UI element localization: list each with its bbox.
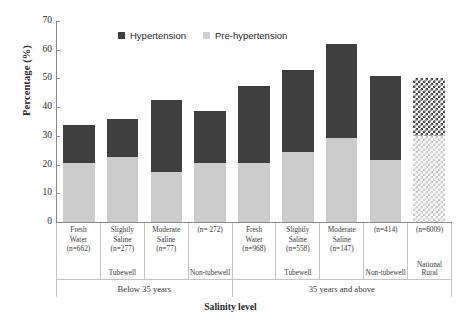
stacked-bar[interactable] <box>194 111 226 222</box>
bar-segment-pre-hypertension[interactable] <box>107 157 139 222</box>
legend-label: Pre-hypertension <box>215 30 287 41</box>
category-name-line: Saline <box>320 235 363 245</box>
bar-segment-hypertension[interactable] <box>282 70 314 152</box>
y-tick-mark <box>56 78 60 79</box>
category-name-line: Saline <box>276 235 319 245</box>
y-axis-tick-labels: 706050403020100 <box>34 21 56 222</box>
legend-item[interactable]: Pre-hypertension <box>203 30 287 41</box>
bar-segment-pre-hypertension[interactable] <box>282 152 314 222</box>
y-tick-label: 20 <box>43 160 53 170</box>
category-name: (n=414) <box>364 225 407 235</box>
stacked-bar[interactable] <box>326 44 358 222</box>
category-name-line: (n=147) <box>320 244 363 254</box>
bar-segment-hypertension[interactable] <box>238 86 270 163</box>
y-axis-title: Percentage (%) <box>21 11 32 151</box>
y-tick-label: 40 <box>43 102 53 112</box>
category-sublabel: NationalRural <box>408 261 451 279</box>
category-label-cell: (n=6009)NationalRural <box>408 223 451 279</box>
y-tick-mark <box>56 222 60 223</box>
bar-segment-pre-hypertension[interactable] <box>326 138 358 222</box>
bar-slot <box>188 21 232 222</box>
x-axis-category-labels: FreshWater(n=662)SlightlySaline(n=277)Tu… <box>57 223 451 279</box>
hypertension-swatch <box>118 32 125 39</box>
category-name: (n=6009) <box>408 225 451 235</box>
category-sublabel: Non-tubewell <box>189 269 232 278</box>
group-label: Below 35 years <box>118 284 171 294</box>
bar-segment-pre-hypertension[interactable] <box>370 160 402 222</box>
category-name: SlightlySaline(n=558) <box>276 225 319 254</box>
bar-slot <box>363 21 407 222</box>
bar-segment-hypertension[interactable] <box>151 100 183 172</box>
x-axis-group-labels: Below 35 years35 years and above <box>57 279 451 297</box>
category-name-line: Saline <box>101 235 144 245</box>
bar-segment-pre-hypertension[interactable] <box>194 163 226 222</box>
category-name-line: (n=6009) <box>408 225 451 235</box>
legend-item[interactable]: Hypertension <box>118 30 186 41</box>
category-name-line: Saline <box>145 235 188 245</box>
bar-segment-hypertension[interactable] <box>63 125 95 163</box>
bar-series-container <box>57 21 451 222</box>
category-name-line: Slightly <box>276 225 319 235</box>
category-label-cell: SlightlySaline(n=558)Tubewell <box>276 223 320 279</box>
bar-slot <box>407 21 451 222</box>
stacked-bar[interactable] <box>282 70 314 222</box>
stacked-bar[interactable] <box>107 119 139 222</box>
category-name-line: (n=77) <box>145 244 188 254</box>
category-name: ModerateSaline(n=147) <box>320 225 363 254</box>
legend-label: Hypertension <box>130 30 186 41</box>
stacked-bar[interactable] <box>370 76 402 222</box>
category-label-cell: SlightlySaline(n=277)Tubewell <box>101 223 145 279</box>
category-name-line: Moderate <box>320 225 363 235</box>
category-label-cell: (n=414)Non-tubewell <box>364 223 408 279</box>
y-tick-label: 10 <box>43 189 53 199</box>
stacked-bar[interactable] <box>63 125 95 222</box>
stacked-bar[interactable] <box>151 100 183 222</box>
category-name: ModerateSaline(n=77) <box>145 225 188 254</box>
bar-segment-pre-hypertension[interactable] <box>413 136 445 222</box>
category-name-line: (n=277) <box>101 244 144 254</box>
category-name-line: Fresh <box>233 225 276 235</box>
y-tick-mark <box>56 165 60 166</box>
bar-segment-pre-hypertension[interactable] <box>238 163 270 222</box>
category-name: (n= 272) <box>189 225 232 235</box>
group-label-cell: 35 years and above <box>233 280 451 297</box>
bar-slot <box>276 21 320 222</box>
y-tick-mark <box>56 107 60 108</box>
x-axis-title: Salinity level <box>0 301 461 312</box>
group-label: 35 years and above <box>309 284 375 294</box>
bar-segment-hypertension[interactable] <box>370 76 402 160</box>
bar-slot <box>320 21 364 222</box>
category-name: SlightlySaline(n=277) <box>101 225 144 254</box>
bar-segment-hypertension[interactable] <box>326 44 358 138</box>
category-name-line: (n=558) <box>276 244 319 254</box>
y-tick-label: 0 <box>47 217 52 227</box>
category-sublabel-line: Rural <box>408 269 451 278</box>
category-label-cell: ModerateSaline(n=77) <box>145 223 189 279</box>
y-tick-mark <box>56 193 60 194</box>
bar-slot <box>101 21 145 222</box>
bar-segment-hypertension[interactable] <box>194 111 226 163</box>
category-sublabel-line: Tubewell <box>276 269 319 278</box>
pre-hypertension-swatch <box>203 32 210 39</box>
stacked-bar[interactable] <box>238 86 270 222</box>
category-label-cell: FreshWater(n=968) <box>233 223 277 279</box>
stacked-bar-chart-figure: Percentage (%) 706050403020100 Hypertens… <box>0 0 461 323</box>
category-label-cell: (n= 272)Non-tubewell <box>189 223 233 279</box>
bar-segment-pre-hypertension[interactable] <box>151 172 183 222</box>
category-name-line: Fresh <box>57 225 100 235</box>
category-name-line: Slightly <box>101 225 144 235</box>
category-sublabel: Tubewell <box>101 269 144 278</box>
category-name-line: Water <box>233 235 276 245</box>
bar-segment-hypertension[interactable] <box>107 119 139 157</box>
bar-slot <box>232 21 276 222</box>
y-tick-label: 70 <box>43 16 53 26</box>
category-label-cell: FreshWater(n=662) <box>57 223 101 279</box>
y-tick-mark <box>56 21 60 22</box>
bar-segment-hypertension[interactable] <box>413 78 445 135</box>
bar-segment-pre-hypertension[interactable] <box>63 163 95 222</box>
y-tick-label: 50 <box>43 74 53 84</box>
y-tick-label: 60 <box>43 45 53 55</box>
stacked-bar[interactable] <box>413 78 445 222</box>
group-label-cell: Below 35 years <box>57 280 233 297</box>
chart-legend: HypertensionPre-hypertension <box>118 30 287 41</box>
